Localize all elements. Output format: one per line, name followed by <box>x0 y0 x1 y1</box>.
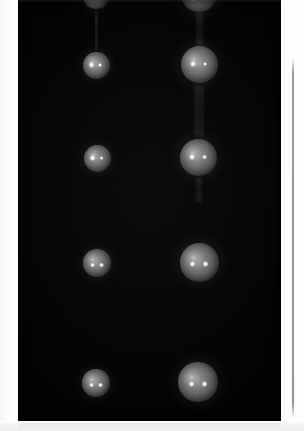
sphere-body-shading <box>82 369 110 397</box>
sphere-body-shading <box>83 249 111 277</box>
sphere-streak <box>196 10 203 48</box>
dark-imaging-panel <box>18 0 281 421</box>
specular-highlight-1 <box>189 381 195 387</box>
sphere-r2 <box>181 46 218 83</box>
specular-highlight-1 <box>89 62 94 67</box>
sphere-streak <box>194 82 204 140</box>
sphere-body-shading <box>83 52 110 79</box>
specular-highlight-2 <box>202 381 208 387</box>
specular-highlight-2 <box>202 155 206 159</box>
specular-highlight-1 <box>90 155 95 160</box>
sphere-l4 <box>83 249 111 277</box>
sphere-body-shading <box>181 46 218 83</box>
panel-vignette <box>18 0 281 421</box>
sphere-l3 <box>84 145 111 172</box>
sphere-body-shading <box>180 243 219 282</box>
sphere-streak <box>196 176 202 204</box>
vertical-scale-rule <box>292 58 294 418</box>
specular-highlight-1 <box>190 61 196 67</box>
sphere-body-shading <box>180 139 217 176</box>
bottom-margin-inner <box>18 423 281 428</box>
panel-top-edge <box>18 0 281 2</box>
specular-highlight-2 <box>203 261 209 267</box>
specular-highlight-1 <box>190 261 196 267</box>
sphere-l2 <box>83 52 110 79</box>
sphere-l5 <box>82 369 110 397</box>
sphere-r5 <box>178 362 218 402</box>
sphere-r4 <box>180 243 219 282</box>
sphere-r3 <box>180 139 217 176</box>
sphere-body-shading <box>84 145 111 172</box>
screenshot-root <box>0 0 304 431</box>
specular-highlight-1 <box>189 154 195 160</box>
sphere-streak <box>95 8 98 54</box>
sphere-body-shading <box>178 362 218 402</box>
panel-edge-shadow <box>18 0 281 421</box>
